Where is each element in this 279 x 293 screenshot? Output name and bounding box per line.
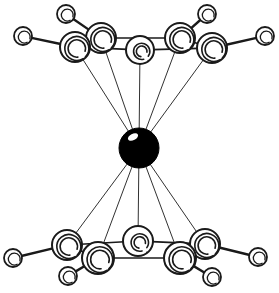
substituent-atom-h2	[57, 5, 75, 23]
substituent-bond	[225, 38, 258, 45]
ring-atom-c4	[165, 23, 195, 53]
molecule-canvas	[0, 0, 279, 293]
substituent-atom-h7	[59, 267, 77, 285]
ring-atom-c3	[126, 36, 154, 64]
substituent-atom-h1	[14, 27, 32, 45]
substituent-bond	[218, 247, 251, 255]
ring-atom-c5	[197, 33, 227, 63]
metal-center-atom-group	[119, 128, 159, 168]
metal-coordination-bond	[149, 163, 197, 233]
ring-atom-c8	[123, 226, 153, 256]
metal-coordination-bond	[82, 58, 129, 132]
ring-atom-c1	[60, 32, 90, 62]
substituent-bond	[30, 38, 61, 45]
substituent-atom-h10	[249, 248, 267, 266]
substituent-atom-h6	[4, 249, 22, 267]
metal-coordination-bond	[138, 167, 139, 228]
metal-center-atom	[119, 128, 159, 168]
ring-atom-c9	[164, 242, 196, 274]
substituent-atom-h9	[203, 268, 221, 286]
molecular-structure-figure	[0, 0, 279, 293]
ring-atom-c6	[52, 230, 82, 260]
substituent-atom-h4	[198, 5, 216, 23]
metal-coordination-bond	[105, 51, 133, 131]
ring-atom-c7	[82, 242, 114, 274]
substituent-atom-h5	[256, 27, 274, 45]
substituent-bond	[72, 18, 90, 30]
substituent-bond	[20, 248, 54, 256]
metal-coordination-bond	[139, 63, 140, 130]
